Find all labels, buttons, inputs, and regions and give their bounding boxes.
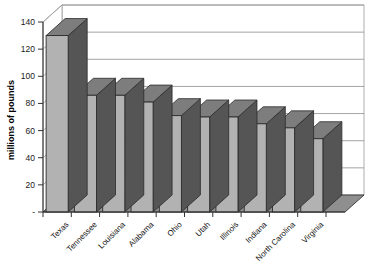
bar-chart: -20406080100120140 TexasTennesseeLouisia… [0, 0, 375, 278]
y-tick-label: 120 [21, 44, 35, 54]
y-tick-label: 80 [26, 98, 36, 108]
y-tick-label: 100 [21, 71, 35, 81]
y-tick-label: 140 [21, 17, 35, 27]
y-tick-label: 40 [26, 153, 36, 163]
y-tick-label: 60 [26, 126, 36, 136]
bar-column [46, 19, 87, 212]
y-tick-label: 20 [26, 180, 36, 190]
y-tick-label: - [32, 207, 35, 217]
y-axis-title: millions of pounds [6, 80, 16, 160]
chart-canvas: -20406080100120140 TexasTennesseeLouisia… [0, 0, 375, 278]
